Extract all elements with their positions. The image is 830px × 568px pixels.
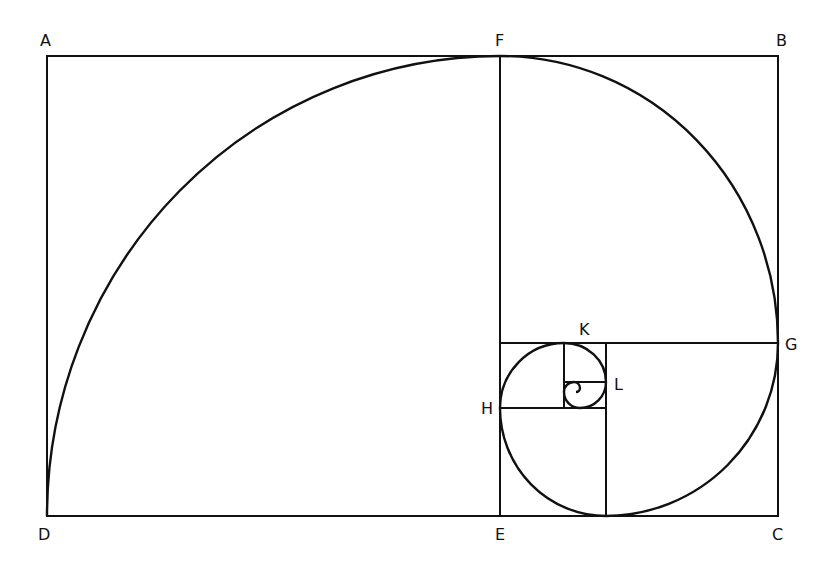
label-e: E <box>495 525 505 544</box>
label-c: C <box>772 525 783 544</box>
label-h: H <box>481 399 493 418</box>
golden-spiral-diagram: A F B G K L H D E C <box>0 0 830 568</box>
label-k: K <box>579 320 590 339</box>
label-g: G <box>785 335 797 354</box>
label-d: D <box>38 525 50 544</box>
rectangles <box>47 56 778 516</box>
golden-spiral <box>47 56 778 516</box>
label-l: L <box>614 375 623 394</box>
label-b: B <box>776 31 787 50</box>
outer-rectangle-abcd <box>47 56 778 516</box>
label-a: A <box>40 31 51 50</box>
label-f: F <box>495 31 504 50</box>
